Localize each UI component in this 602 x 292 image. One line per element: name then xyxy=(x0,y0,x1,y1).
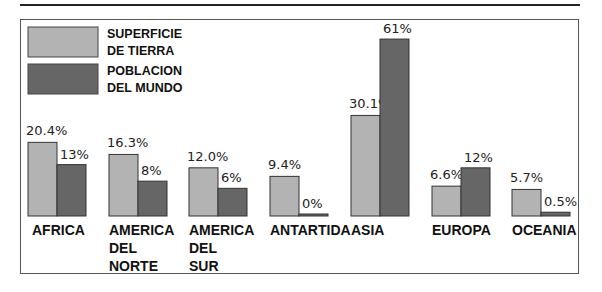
legend-swatch-poblacion xyxy=(28,64,98,94)
bar-poblacion xyxy=(299,214,328,216)
bar-poblacion xyxy=(138,181,167,216)
data-label: 16.3% xyxy=(107,135,148,150)
bar-superficie xyxy=(512,189,541,216)
bar-superficie xyxy=(28,142,57,216)
legend-swatch-superficie xyxy=(28,27,98,57)
bar-superficie xyxy=(432,186,461,216)
data-label: 0% xyxy=(302,196,323,211)
data-label: 9.4% xyxy=(268,157,301,172)
bar-poblacion xyxy=(461,168,490,216)
category-label: AFRICA xyxy=(32,222,85,238)
category-label: NORTE xyxy=(109,258,158,274)
data-label: 61% xyxy=(383,21,412,36)
category-label: AMERICA xyxy=(109,222,174,238)
category-label: DEL xyxy=(189,240,217,256)
data-label: 5.7% xyxy=(510,170,543,185)
legend: SUPERFICIEDE TIERRAPOBLACIONDEL MUNDO xyxy=(28,27,183,95)
bar-poblacion xyxy=(380,39,409,216)
data-label: 0.5% xyxy=(544,194,577,209)
category-label: ANTARTIDA xyxy=(270,222,351,238)
bar-superficie xyxy=(270,176,299,216)
bar-poblacion xyxy=(541,212,570,216)
bar-superficie xyxy=(351,115,380,216)
category-label: ASIA xyxy=(351,222,384,238)
data-label: 6.6% xyxy=(430,167,463,182)
category-label: OCEANIA xyxy=(512,222,577,238)
legend-label: POBLACION xyxy=(107,64,182,78)
bar-chart: SUPERFICIEDE TIERRAPOBLACIONDEL MUNDO 20… xyxy=(0,0,602,292)
data-label: 13% xyxy=(60,147,89,162)
data-label: 6% xyxy=(221,170,242,185)
data-label: 12% xyxy=(464,150,493,165)
bar-poblacion xyxy=(57,165,86,216)
legend-label: DE TIERRA xyxy=(107,44,174,58)
bar-superficie xyxy=(189,168,218,216)
bars: 20.4%13%AFRICA16.3%8%AMERICADELNORTE12.0… xyxy=(26,21,577,274)
legend-label: DEL MUNDO xyxy=(107,81,183,95)
category-label: EUROPA xyxy=(432,222,491,238)
category-label: DEL xyxy=(109,240,137,256)
data-label: 12.0% xyxy=(187,149,228,164)
data-label: 20.4% xyxy=(26,123,67,138)
category-label: SUR xyxy=(189,258,219,274)
data-label: 8% xyxy=(141,163,162,178)
bar-superficie xyxy=(109,154,138,216)
bar-poblacion xyxy=(218,188,247,216)
category-label: AMERICA xyxy=(189,222,254,238)
legend-label: SUPERFICIE xyxy=(107,27,182,41)
